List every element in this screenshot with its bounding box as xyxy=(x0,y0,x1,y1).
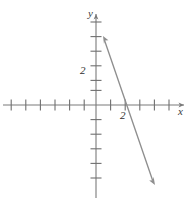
x-axis-tick-label-2: 2 xyxy=(120,110,126,121)
graph-canvas xyxy=(0,0,189,202)
coordinate-plane-figure: y x 2 2 xyxy=(0,0,189,202)
y-axis-tick-label-2: 2 xyxy=(80,65,86,76)
y-axis-label: y xyxy=(88,8,93,19)
x-axis-label: x xyxy=(178,106,183,117)
